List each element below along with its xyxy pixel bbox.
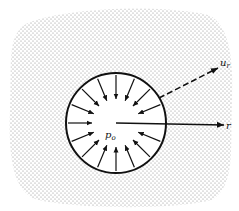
cavity-diagram: r ur po: [0, 0, 239, 211]
